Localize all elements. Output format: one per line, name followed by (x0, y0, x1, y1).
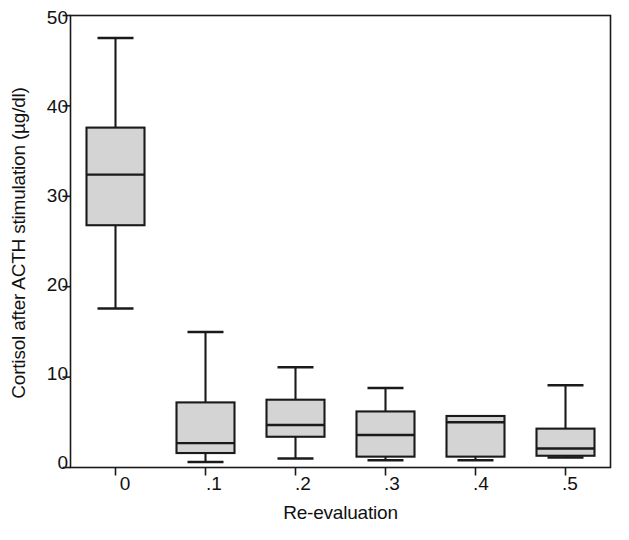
boxplot-figure: Cortisol after ACTH stimulation (µg/dl) … (0, 0, 629, 540)
plot-area (0, 0, 629, 540)
box-.3 (357, 388, 415, 460)
box-.1 (177, 332, 235, 462)
box-iqr (177, 402, 235, 453)
box-.5 (537, 385, 595, 457)
plot-frame (71, 16, 611, 468)
box-.4 (447, 416, 505, 460)
box-.2 (267, 367, 325, 458)
box-iqr (537, 429, 595, 456)
box-iqr (87, 128, 145, 226)
box-glyphs (87, 38, 595, 462)
y-axis-ticks (63, 16, 71, 468)
box-0 (87, 38, 145, 308)
box-iqr (267, 400, 325, 437)
x-axis-ticks (116, 468, 566, 476)
